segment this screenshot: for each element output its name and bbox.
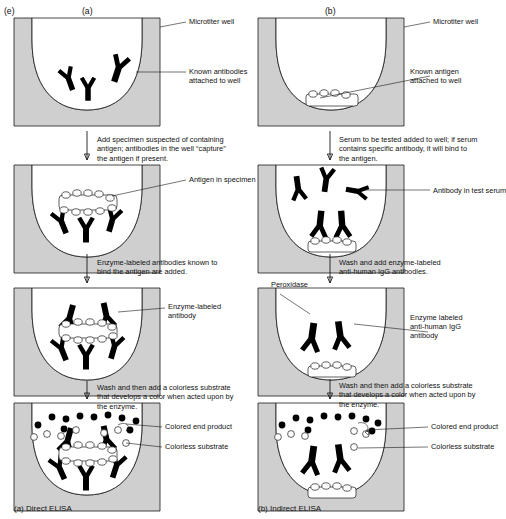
right-panel-3-well	[258, 288, 428, 396]
label-enzyme-labeled-anti-human-igg: Enzyme labeled anti-human IgG antibody	[410, 313, 463, 341]
label-microtiter-well-left: Microtiter well	[189, 17, 234, 26]
step-right-2: Wash and add enzyme-labeled anti-human I…	[339, 258, 441, 277]
caption-direct-elisa: (a) Direct ELISA	[14, 504, 72, 513]
caption-indirect-elisa: (b) Indirect ELISA	[258, 504, 321, 513]
label-antigen-in-specimen: Antigen in specimen	[189, 175, 256, 184]
label-microtiter-well-right: Microtiter well	[433, 17, 478, 26]
label-known-antigen: Known antigen attached to well	[410, 67, 461, 85]
step-right-1: Serum to be tested added to well; if ser…	[339, 135, 477, 163]
figure-index-tag: (e)	[4, 6, 15, 16]
right-panel-1-well	[258, 18, 404, 126]
step-left-3: Wash and then add a colorless substrate …	[97, 383, 233, 411]
right-panel-4-well	[258, 403, 404, 511]
step-left-2: Enzyme-labeled antibodies known to bind …	[97, 258, 217, 277]
label-peroxidase: Peroxidase	[271, 280, 308, 289]
column-tag-a: (a)	[82, 6, 93, 16]
right-panel-2-well	[258, 165, 404, 273]
step-right-3: Wash and then add a colorless substrate …	[339, 381, 475, 409]
column-tag-b: (b)	[325, 6, 336, 16]
left-panel-4-well	[14, 403, 160, 511]
label-known-antibodies: Known antibodies attached to well	[189, 67, 247, 85]
label-antibody-in-test-serum: Antibody in test serum	[433, 186, 506, 195]
label-colorless-substrate-left: Colorless substrate	[165, 442, 228, 451]
label-colored-end-product-left: Colored end product	[165, 422, 232, 431]
label-enzyme-labeled-antibody: Enzyme-labeled antibody	[168, 302, 221, 320]
left-panel-3-well	[14, 288, 160, 396]
label-colorless-substrate-right: Colorless substrate	[431, 442, 494, 451]
label-colored-end-product-right: Colored end product	[431, 422, 498, 431]
step-left-1: Add specimen suspected of containing ant…	[97, 135, 226, 163]
